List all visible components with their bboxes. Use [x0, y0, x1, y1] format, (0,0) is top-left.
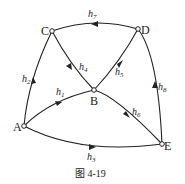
arrow-h2-icon — [31, 77, 36, 84]
node-label-A: A — [13, 120, 22, 134]
edge-h5 — [94, 29, 138, 90]
node-D — [136, 27, 141, 32]
graph-diagram: A B C D E h7 h2 h4 h5 h1 h6 h8 h3 图 4-19 — [0, 0, 185, 184]
node-A — [22, 124, 27, 129]
edge-h4 — [52, 31, 94, 90]
edge-h6 — [94, 90, 162, 144]
node-label-E: E — [164, 139, 171, 153]
edge-label-h3: h3 — [87, 151, 96, 164]
edge-label-h2: h2 — [22, 73, 31, 86]
node-C — [50, 29, 55, 34]
edge-label-h5: h5 — [115, 66, 124, 79]
edge-label-h8: h8 — [158, 81, 167, 94]
edge-label-h1: h1 — [56, 86, 65, 99]
edge-label-h7: h7 — [88, 8, 97, 21]
edge-label-h6: h6 — [132, 106, 141, 119]
arrow-h4-icon — [66, 63, 72, 70]
arrow-h7-icon — [91, 21, 98, 27]
node-B — [92, 88, 97, 93]
edge-label-h4: h4 — [79, 61, 88, 74]
edge-h3 — [24, 126, 162, 147]
node-label-D: D — [141, 23, 150, 37]
figure-caption: 图 4-19 — [75, 168, 106, 179]
node-label-C: C — [41, 24, 49, 38]
node-label-B: B — [90, 94, 98, 108]
arrow-h1-icon — [55, 101, 62, 106]
arrow-h3-icon — [89, 144, 96, 150]
